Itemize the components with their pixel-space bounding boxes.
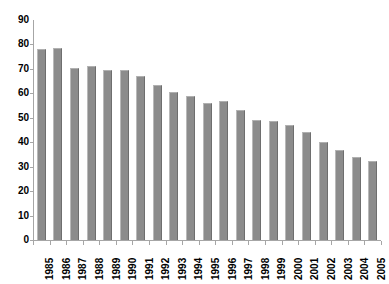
- x-tick-label-1992: 1992: [161, 258, 171, 280]
- x-tick-label-1987: 1987: [78, 258, 88, 280]
- x-tick-label-2000: 2000: [294, 258, 304, 280]
- x-tick-label-1996: 1996: [228, 258, 238, 280]
- x-tick-mark-1: [50, 241, 51, 245]
- x-tick-label-1990: 1990: [128, 258, 138, 280]
- x-tick-mark-10: [199, 241, 200, 245]
- bar-1993: [169, 92, 178, 240]
- y-tick-label-20: 20: [3, 186, 29, 196]
- bar-2000: [285, 125, 294, 240]
- y-tick-label-10: 10: [3, 211, 29, 221]
- x-tick-mark-18: [331, 241, 332, 245]
- y-tick-label-70: 70: [3, 64, 29, 74]
- y-tick-mark-80: [30, 44, 34, 45]
- bar-1987: [70, 68, 79, 240]
- x-tick-label-2004: 2004: [360, 258, 370, 280]
- x-tick-mark-14: [265, 241, 266, 245]
- x-tick-mark-19: [348, 241, 349, 245]
- y-tick-mark-40: [30, 142, 34, 143]
- bar-2004: [352, 157, 361, 240]
- bar-chart: 9080706050403020100 19851986198719881989…: [0, 0, 389, 284]
- x-tick-mark-5: [116, 241, 117, 245]
- x-tick-mark-7: [149, 241, 150, 245]
- x-tick-mark-16: [298, 241, 299, 245]
- x-tick-label-2005: 2005: [377, 258, 387, 280]
- x-tick-mark-13: [248, 241, 249, 245]
- bar-1989: [103, 70, 112, 240]
- bar-2005: [368, 161, 377, 240]
- x-tick-label-2002: 2002: [327, 258, 337, 280]
- y-tick-mark-30: [30, 167, 34, 168]
- y-tick-label-0: 0: [3, 235, 29, 245]
- bar-2001: [302, 132, 311, 240]
- y-tick-label-30: 30: [3, 162, 29, 172]
- bar-1998: [252, 120, 261, 240]
- x-tick-mark-15: [282, 241, 283, 245]
- bar-1996: [219, 101, 228, 240]
- bar-1990: [120, 70, 129, 240]
- x-tick-label-2003: 2003: [344, 258, 354, 280]
- x-tick-label-1998: 1998: [261, 258, 271, 280]
- bar-1999: [269, 121, 278, 240]
- x-tick-mark-4: [99, 241, 100, 245]
- bar-1995: [203, 103, 212, 240]
- y-tick-label-40: 40: [3, 137, 29, 147]
- x-tick-mark-end: [381, 241, 382, 245]
- x-tick-label-1994: 1994: [194, 258, 204, 280]
- x-tick-mark-20: [364, 241, 365, 245]
- bar-2003: [335, 150, 344, 240]
- y-tick-label-60: 60: [3, 88, 29, 98]
- y-tick-mark-70: [30, 69, 34, 70]
- y-tick-mark-10: [30, 216, 34, 217]
- x-tick-label-1997: 1997: [244, 258, 254, 280]
- y-tick-label-50: 50: [3, 113, 29, 123]
- x-tick-mark-17: [315, 241, 316, 245]
- x-tick-mark-9: [182, 241, 183, 245]
- y-tick-label-80: 80: [3, 39, 29, 49]
- x-axis-line: [33, 240, 381, 241]
- bar-1991: [136, 76, 145, 240]
- y-tick-label-90: 90: [3, 15, 29, 25]
- x-tick-label-1991: 1991: [145, 258, 155, 280]
- bar-2002: [319, 142, 328, 240]
- x-tick-mark-8: [166, 241, 167, 245]
- x-tick-label-2001: 2001: [310, 258, 320, 280]
- x-tick-mark-3: [83, 241, 84, 245]
- bar-1986: [53, 48, 62, 240]
- y-tick-mark-20: [30, 191, 34, 192]
- x-tick-label-1988: 1988: [95, 258, 105, 280]
- plot-area: [33, 20, 381, 240]
- y-tick-mark-50: [30, 118, 34, 119]
- x-tick-mark-11: [215, 241, 216, 245]
- y-axis-tick-labels: 9080706050403020100: [0, 0, 29, 284]
- y-tick-mark-60: [30, 93, 34, 94]
- x-tick-mark-6: [132, 241, 133, 245]
- bar-1985: [37, 49, 46, 240]
- x-tick-label-1995: 1995: [211, 258, 221, 280]
- x-tick-label-1993: 1993: [178, 258, 188, 280]
- x-tick-label-1999: 1999: [277, 258, 287, 280]
- bar-1997: [236, 110, 245, 240]
- bar-1988: [87, 66, 96, 240]
- x-tick-mark-2: [66, 241, 67, 245]
- x-tick-label-1989: 1989: [112, 258, 122, 280]
- x-tick-label-1985: 1985: [45, 258, 55, 280]
- bar-1994: [186, 96, 195, 240]
- x-tick-label-1986: 1986: [62, 258, 72, 280]
- x-tick-mark-0: [33, 241, 34, 245]
- bar-1992: [153, 85, 162, 240]
- x-tick-mark-12: [232, 241, 233, 245]
